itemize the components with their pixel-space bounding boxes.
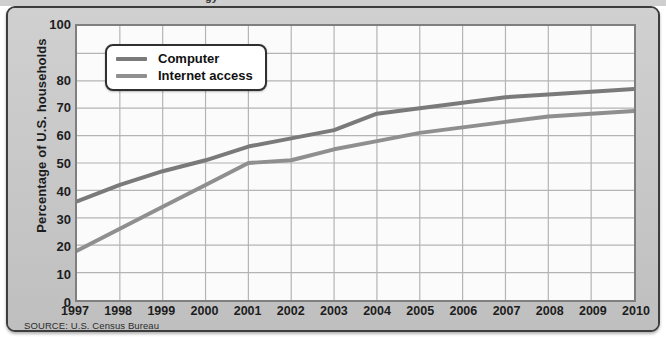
legend-swatch-icon bbox=[116, 74, 147, 78]
y-tick-label: 10 bbox=[27, 267, 71, 282]
series-lines bbox=[77, 89, 634, 251]
x-tick-label: 2003 bbox=[311, 304, 357, 318]
x-tick-label: 2008 bbox=[527, 304, 573, 318]
x-tick-label: 1999 bbox=[138, 304, 184, 318]
x-tick-label: 2000 bbox=[181, 304, 227, 318]
x-tick-label: 1997 bbox=[52, 304, 98, 318]
x-tick-label: 2010 bbox=[613, 304, 658, 318]
chart-figure-panel: Percentage of U.S. households 0102030405… bbox=[8, 8, 658, 330]
y-tick-label: 20 bbox=[27, 239, 71, 254]
y-tick-label: 40 bbox=[27, 183, 71, 198]
source-note: SOURCE: U.S. Census Bureau bbox=[24, 320, 159, 330]
y-tick-label: 50 bbox=[27, 156, 71, 171]
chart-figure-frame: Percentage of U.S. households 0102030405… bbox=[6, 6, 660, 332]
x-tick-label: 2005 bbox=[397, 304, 443, 318]
y-tick-label: 100 bbox=[27, 17, 71, 32]
chart-legend: ComputerInternet access bbox=[105, 44, 267, 91]
screenshot-root: gy Percentage of U.S. households 0102030… bbox=[0, 0, 666, 345]
legend-swatch-icon bbox=[116, 57, 147, 61]
x-axis-tick-labels: 1997199819992000200120022003200420052006… bbox=[75, 304, 636, 324]
x-tick-label: 2006 bbox=[440, 304, 486, 318]
y-tick-label: 80 bbox=[27, 72, 71, 87]
legend-label: Computer bbox=[158, 51, 219, 66]
x-tick-label: 2007 bbox=[484, 304, 530, 318]
legend-entry: Internet access bbox=[116, 67, 253, 84]
legend-entry: Computer bbox=[116, 50, 253, 67]
legend-label: Internet access bbox=[158, 68, 253, 83]
y-tick-label: 60 bbox=[27, 128, 71, 143]
y-tick-label: 70 bbox=[27, 100, 71, 115]
cut-off-text-fragment: gy bbox=[205, 0, 218, 3]
x-tick-label: 2001 bbox=[225, 304, 271, 318]
x-tick-label: 1998 bbox=[95, 304, 141, 318]
series-line-internet-access bbox=[77, 111, 634, 251]
x-tick-label: 2002 bbox=[268, 304, 314, 318]
x-tick-label: 2004 bbox=[354, 304, 400, 318]
y-axis-tick-labels: 01020304050607080100 bbox=[24, 24, 71, 302]
x-tick-label: 2009 bbox=[570, 304, 616, 318]
y-tick-label: 30 bbox=[27, 211, 71, 226]
